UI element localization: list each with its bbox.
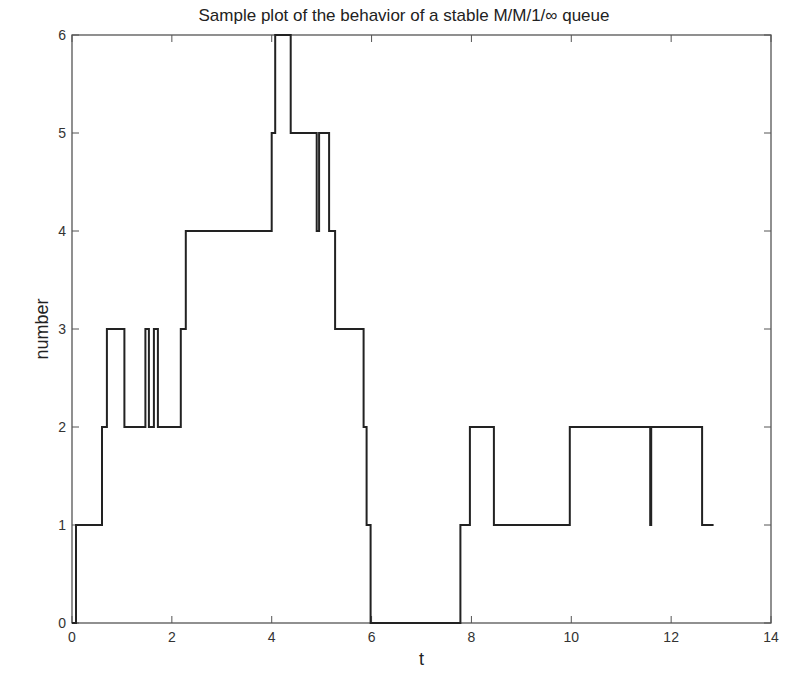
x-axis-label: t <box>419 649 424 669</box>
step-chart: 024681012140123456 t number <box>0 0 808 693</box>
x-tick-label: 4 <box>268 629 276 645</box>
y-axis-label: number <box>32 298 52 359</box>
x-tick-label: 0 <box>68 629 76 645</box>
y-tick-label: 1 <box>58 517 66 533</box>
x-tick-label: 2 <box>168 629 176 645</box>
y-tick-label: 5 <box>58 125 66 141</box>
x-tick-label: 12 <box>663 629 679 645</box>
plot-axes: 024681012140123456 <box>58 27 779 645</box>
y-tick-label: 4 <box>58 223 66 239</box>
series-layer <box>72 35 714 623</box>
y-tick-label: 2 <box>58 419 66 435</box>
y-tick-label: 3 <box>58 321 66 337</box>
x-tick-label: 8 <box>468 629 476 645</box>
queue-length-line <box>72 35 714 623</box>
x-tick-label: 14 <box>763 629 779 645</box>
y-tick-label: 6 <box>58 27 66 43</box>
x-tick-label: 6 <box>368 629 376 645</box>
plot-frame <box>72 35 771 623</box>
x-tick-label: 10 <box>563 629 579 645</box>
y-tick-label: 0 <box>58 615 66 631</box>
